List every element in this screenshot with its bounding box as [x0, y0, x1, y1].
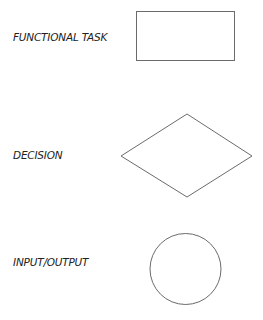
input-output-circle-shape	[150, 234, 221, 305]
decision-diamond-shape	[121, 114, 252, 197]
functional-task-rectangle-shape	[137, 12, 235, 61]
flowchart-symbols	[0, 0, 263, 320]
